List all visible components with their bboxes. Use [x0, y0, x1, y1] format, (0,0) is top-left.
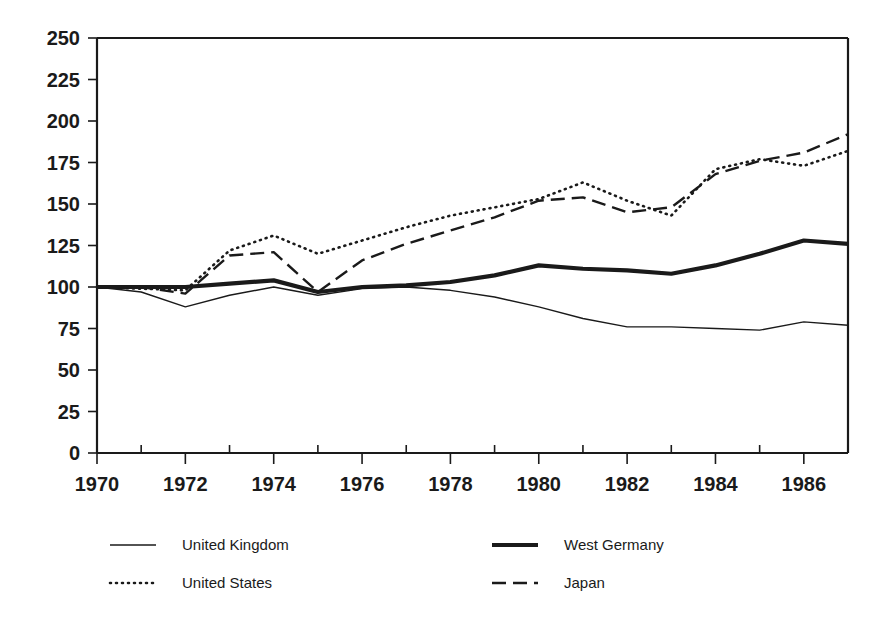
- x-tick-label: 1976: [340, 473, 385, 495]
- y-axis-ticks: [88, 38, 97, 453]
- y-tick-label: 200: [47, 110, 80, 132]
- series-line-united-kingdom: [97, 287, 848, 330]
- y-axis-tick-labels: 0255075100125150175200225250: [47, 27, 80, 464]
- x-tick-label: 1980: [517, 473, 562, 495]
- x-axis-ticks: [97, 445, 848, 464]
- legend-label: United Kingdom: [182, 536, 289, 553]
- y-tick-label: 50: [58, 359, 80, 381]
- x-tick-label: 1974: [251, 473, 296, 495]
- y-tick-label: 225: [47, 69, 80, 91]
- legend-label: Japan: [564, 574, 605, 591]
- x-tick-label: 1972: [163, 473, 208, 495]
- y-tick-label: 250: [47, 27, 80, 49]
- y-tick-label: 125: [47, 235, 80, 257]
- legend-label: West Germany: [564, 536, 664, 553]
- x-tick-label: 1970: [75, 473, 120, 495]
- x-tick-label: 1984: [693, 473, 738, 495]
- x-tick-label: 1982: [605, 473, 650, 495]
- x-tick-label: 1978: [428, 473, 473, 495]
- chart-legend: United KingdomWest GermanyUnited StatesJ…: [110, 536, 664, 591]
- y-tick-label: 75: [58, 318, 80, 340]
- series-line-west-germany: [97, 241, 848, 292]
- x-axis-tick-labels: 197019721974197619781980198219841986: [75, 473, 826, 495]
- y-tick-label: 175: [47, 152, 80, 174]
- y-tick-label: 0: [69, 442, 80, 464]
- x-tick-label: 1986: [782, 473, 827, 495]
- line-chart-figure: 0255075100125150175200225250 19701972197…: [0, 0, 883, 625]
- data-series-group: [97, 134, 848, 330]
- y-tick-label: 25: [58, 401, 80, 423]
- series-line-united-states: [97, 151, 848, 290]
- plot-frame: [97, 38, 848, 453]
- legend-label: United States: [182, 574, 272, 591]
- y-tick-label: 100: [47, 276, 80, 298]
- y-tick-label: 150: [47, 193, 80, 215]
- chart-svg: 0255075100125150175200225250 19701972197…: [0, 0, 883, 625]
